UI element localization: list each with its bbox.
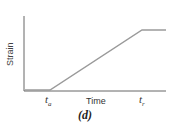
strain-line xyxy=(25,30,166,90)
figure-caption: (d) xyxy=(78,108,92,123)
x-tick-tr: tr xyxy=(139,93,145,108)
y-axis-label: Strain xyxy=(5,42,15,66)
x-tick-ta: ta xyxy=(45,93,52,108)
x-axis-label: Time xyxy=(86,96,106,106)
